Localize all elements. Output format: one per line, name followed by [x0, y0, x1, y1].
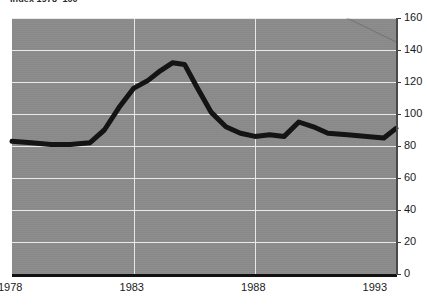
y-axis-label: 0 — [404, 268, 410, 279]
y-axis-label: 120 — [404, 76, 422, 87]
x-axis-label: 1993 — [363, 281, 387, 293]
x-axis-label: 1978 — [0, 281, 22, 293]
y-axis-label: 140 — [404, 44, 422, 55]
y-axis-line — [396, 18, 398, 275]
x-axis-line — [12, 274, 397, 277]
y-axis-label: 80 — [404, 140, 416, 151]
plot-area — [12, 18, 396, 274]
y-axis-label: 60 — [404, 172, 416, 183]
x-axis-label: 1983 — [120, 281, 144, 293]
y-axis-label: 100 — [404, 108, 422, 119]
x-axis-label: 1988 — [241, 281, 265, 293]
y-axis-label: 160 — [404, 12, 422, 23]
chart-container: Index 1978=100 020406080100120140160 197… — [0, 0, 427, 305]
y-axis-label: 40 — [404, 204, 416, 215]
series-layer — [12, 18, 396, 274]
y-axis-label: 20 — [404, 236, 416, 247]
chart-title: Index 1978=100 — [10, 0, 78, 6]
data-line-index — [12, 63, 396, 145]
